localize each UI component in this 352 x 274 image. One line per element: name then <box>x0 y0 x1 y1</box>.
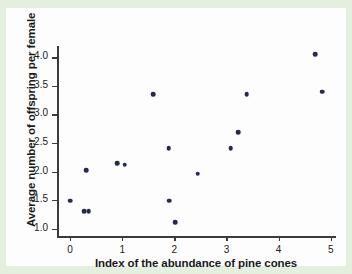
plot-area: 1.01.52.02.53.03.54.0 012345 <box>57 46 336 236</box>
data-point <box>115 161 120 166</box>
data-point <box>196 172 201 177</box>
x-tick-label: 2 <box>172 244 178 255</box>
data-point <box>151 92 156 97</box>
x-tick-label: 4 <box>276 244 282 255</box>
y-tick-label: 3.0 <box>34 107 48 118</box>
y-tick-label: 2.5 <box>34 136 48 147</box>
y-tick: 2.5 <box>52 143 57 144</box>
data-point <box>166 146 171 151</box>
y-tick-label: 4.0 <box>34 50 48 61</box>
data-point <box>84 168 89 173</box>
y-tick-label: 1.5 <box>34 193 48 204</box>
x-tick <box>122 236 123 241</box>
data-point <box>245 92 250 97</box>
data-point <box>68 198 73 203</box>
y-tick: 2.0 <box>52 172 57 173</box>
x-tick <box>331 236 332 241</box>
x-axis-line <box>57 236 336 238</box>
plot-paper: Average number of offspring per female I… <box>6 8 346 266</box>
x-tick <box>279 236 280 241</box>
figure: Average number of offspring per female I… <box>0 0 352 274</box>
data-point <box>173 220 178 225</box>
y-tick-label: 3.5 <box>34 79 48 90</box>
x-tick <box>226 236 227 241</box>
x-axis-title: Index of the abundance of pine cones <box>46 257 346 269</box>
y-tick: 3.0 <box>52 114 57 115</box>
x-tick-label: 5 <box>328 244 334 255</box>
x-tick-label: 3 <box>224 244 230 255</box>
x-tick <box>174 236 175 241</box>
x-tick-label: 1 <box>119 244 125 255</box>
x-tick <box>70 236 71 241</box>
y-tick: 3.5 <box>52 86 57 87</box>
data-point <box>228 146 233 151</box>
data-point <box>236 130 241 135</box>
y-tick: 1.5 <box>52 200 57 201</box>
data-point <box>167 198 172 203</box>
data-point <box>87 209 92 214</box>
y-tick: 1.0 <box>52 229 57 230</box>
data-point <box>320 89 325 94</box>
y-tick: 4.0 <box>52 57 57 58</box>
data-point <box>122 162 127 167</box>
data-point <box>313 52 318 57</box>
y-tick-label: 2.0 <box>34 165 48 176</box>
y-axis-line <box>57 46 59 236</box>
x-tick-label: 0 <box>67 244 73 255</box>
y-tick-label: 1.0 <box>34 222 48 233</box>
